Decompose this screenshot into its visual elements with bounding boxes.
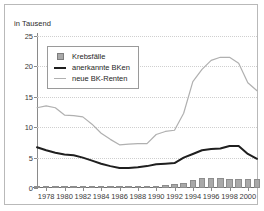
x-tick-label: 1998 [221,192,238,201]
y-tick-label: 10 [25,123,33,132]
x-tick-label: 1994 [184,192,201,201]
x-tick-mark [248,188,249,191]
x-tick-label: 1996 [203,192,220,201]
x-tick-mark [46,188,47,191]
chart-frame: in Tausend 0510152025 197819801982198419… [4,4,258,205]
x-tick-mark [120,188,121,191]
x-tick-label: 1990 [148,192,165,201]
x-tick-mark [101,188,102,191]
line-anerkannte-bken [37,146,257,168]
axis-unit-label: in Tausend [14,19,51,28]
x-tick-label: 1988 [129,192,146,201]
x-tick-mark [83,188,84,191]
x-tick-mark [230,188,231,191]
legend-item-krebsfaelle: Krebsfälle [53,51,130,62]
x-tick-mark [65,188,66,191]
x-tick-mark [193,188,194,191]
chart-legend: Krebsfälle anerkannte BKen neue BK-Rente… [47,46,139,89]
y-tick-label: 25 [25,32,33,41]
y-tick-label: 15 [25,92,33,101]
legend-item-anerkannte-bken: anerkannte BKen [53,62,130,73]
legend-item-neue-bk-renten: neue BK-Renten [53,73,130,84]
x-tick-label: 1986 [111,192,128,201]
y-tick-label: 5 [29,153,33,162]
y-tick-mark [34,188,37,189]
x-tick-mark [211,188,212,191]
legend-swatch-bar-icon [53,53,67,60]
y-tick-label: 20 [25,62,33,71]
x-tick-mark [175,188,176,191]
legend-swatch-light-line-icon [53,78,67,79]
y-tick-label: 0 [29,184,33,193]
legend-swatch-dark-line-icon [53,67,67,69]
x-tick-label: 2000 [239,192,256,201]
x-tick-label: 1980 [56,192,73,201]
x-tick-mark [138,188,139,191]
x-tick-label: 1982 [74,192,91,201]
legend-label: Krebsfälle [72,52,105,61]
x-tick-label: 1984 [93,192,110,201]
x-tick-label: 1992 [166,192,183,201]
x-tick-label: 1978 [38,192,55,201]
legend-label: neue BK-Renten [72,74,127,83]
x-tick-mark [156,188,157,191]
legend-label: anerkannte BKen [72,63,130,72]
